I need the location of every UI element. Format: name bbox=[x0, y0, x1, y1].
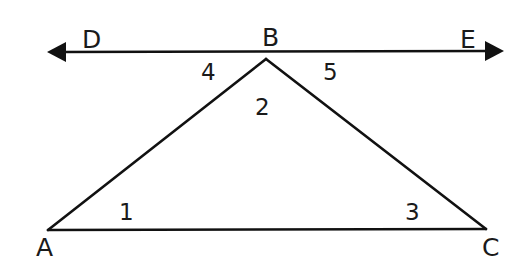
arrow-left-icon bbox=[47, 42, 66, 62]
side-ab bbox=[48, 59, 266, 230]
label-angle-5: 5 bbox=[323, 59, 338, 85]
label-point-a: A bbox=[36, 233, 53, 262]
diagram-canvas: D B E A C 4 5 2 1 3 bbox=[0, 0, 526, 267]
arrow-right-icon bbox=[485, 41, 504, 61]
label-point-e: E bbox=[460, 25, 476, 54]
label-point-b: B bbox=[262, 23, 279, 52]
label-angle-4: 4 bbox=[201, 59, 216, 85]
label-angle-3: 3 bbox=[405, 199, 420, 225]
label-point-c: C bbox=[482, 233, 499, 262]
side-ac bbox=[48, 229, 486, 230]
side-bc bbox=[266, 59, 486, 229]
label-angle-1: 1 bbox=[119, 199, 134, 225]
label-angle-2: 2 bbox=[255, 94, 270, 120]
geometry-diagram: D B E A C 4 5 2 1 3 bbox=[0, 0, 526, 267]
label-point-d: D bbox=[82, 25, 101, 54]
